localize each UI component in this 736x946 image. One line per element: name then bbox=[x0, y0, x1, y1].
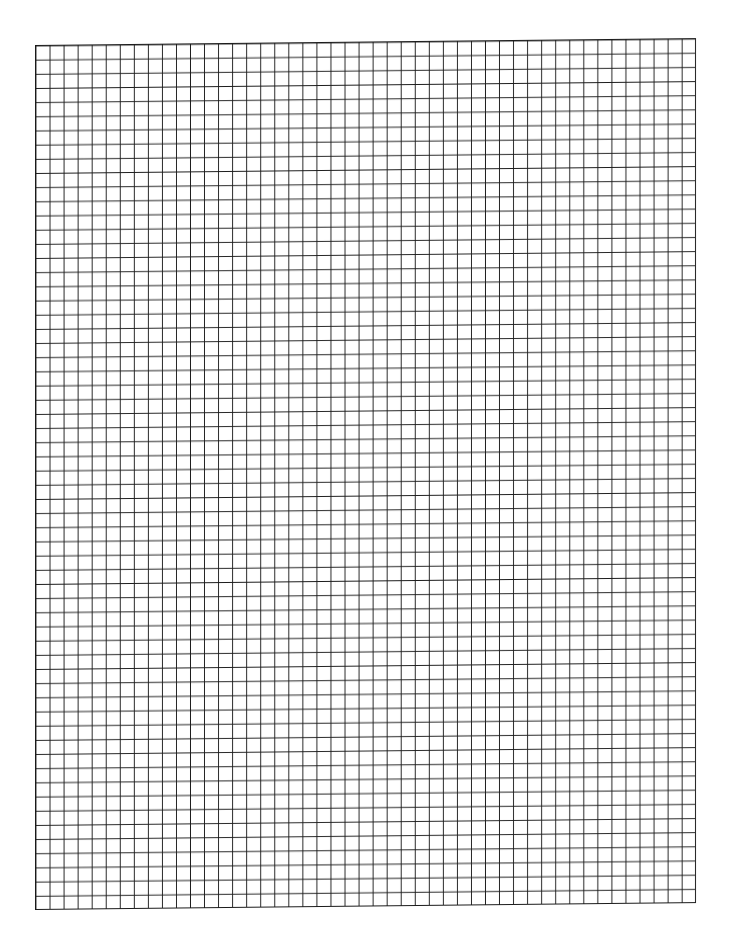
graph-paper-sheet bbox=[0, 0, 736, 946]
grid-lines bbox=[35, 38, 696, 910]
